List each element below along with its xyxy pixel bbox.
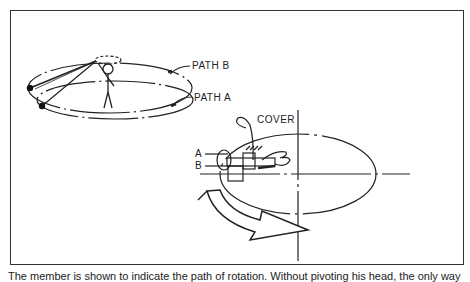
label-cover: COVER [257,114,295,125]
label-path-b: PATH B [192,60,230,71]
label-a: A [195,148,202,159]
rotation-diagram [0,0,470,282]
label-path-a: PATH A [194,92,231,103]
figure-caption: The member is shown to indicate the path… [8,270,460,282]
stick-figure [98,63,114,108]
rotation-arrow [207,190,308,240]
label-b: B [195,160,202,171]
ball-path-a [39,103,45,109]
ball-path-b [27,85,33,91]
